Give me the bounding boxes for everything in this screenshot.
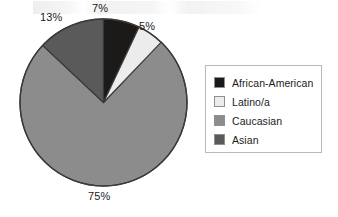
pie-chart-figure: 7% 5% 13% 75% African-American Latino/a …: [0, 0, 338, 217]
legend-item-asian: Asian: [214, 130, 317, 149]
legend-item-african-american: African-American: [214, 73, 317, 92]
legend-label-african-american: African-American: [232, 77, 313, 89]
slice-label-latino: 5%: [139, 20, 155, 32]
slice-label-african-american: 7%: [92, 2, 108, 14]
legend-item-latino: Latino/a: [214, 92, 317, 111]
legend-swatch-african-american: [214, 77, 225, 88]
slice-label-caucasian: 75%: [88, 190, 110, 202]
pie-graphic: [19, 18, 188, 187]
slice-label-asian: 13%: [40, 11, 62, 23]
chart-legend: African-American Latino/a Caucasian Asia…: [205, 65, 322, 153]
legend-swatch-caucasian: [214, 115, 225, 126]
legend-label-asian: Asian: [232, 134, 259, 146]
scan-bleed-artifact: [33, 1, 261, 14]
legend-item-caucasian: Caucasian: [214, 111, 317, 130]
legend-swatch-asian: [214, 134, 225, 145]
legend-label-caucasian: Caucasian: [232, 115, 282, 127]
legend-swatch-latino: [214, 96, 225, 107]
legend-label-latino: Latino/a: [232, 96, 270, 108]
